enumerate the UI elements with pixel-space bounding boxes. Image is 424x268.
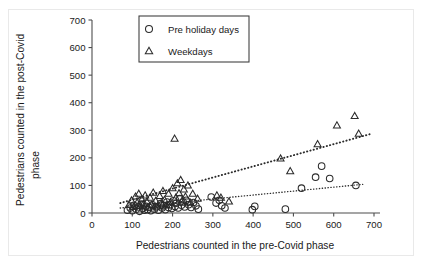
data-point-circle <box>312 174 319 181</box>
x-tick-label: 200 <box>165 219 181 230</box>
x-tick-label: 500 <box>285 219 301 230</box>
data-point-triangle <box>351 112 358 118</box>
y-axis-title-line2: phase <box>30 151 41 179</box>
y-tick-label: 600 <box>69 42 85 53</box>
y-tick-label: 0 <box>80 208 85 219</box>
y-tick-label: 700 <box>69 15 85 26</box>
data-point-triangle <box>355 130 362 136</box>
y-tick-label: 300 <box>69 125 85 136</box>
data-point-triangle <box>333 122 340 128</box>
data-point-triangle <box>142 192 149 198</box>
data-point-circle <box>282 206 289 213</box>
x-tick-label: 600 <box>326 219 342 230</box>
data-point-circle <box>326 175 333 182</box>
y-tick-label: 100 <box>69 180 85 191</box>
y-tick-label: 500 <box>69 70 85 81</box>
y-tick-label: 400 <box>69 97 85 108</box>
data-point-triangle <box>314 141 321 147</box>
legend-label: Weekdays <box>168 46 213 57</box>
y-axis-title-line1: Pedestrians counted in the post-Covid <box>15 34 26 206</box>
data-point-triangle <box>177 176 184 182</box>
data-point-triangle <box>171 135 178 141</box>
data-point-triangle <box>287 168 294 174</box>
legend-label: Pre holiday days <box>168 24 239 35</box>
x-tick-label: 100 <box>124 219 140 230</box>
data-point-triangle <box>189 190 196 196</box>
x-axis-title: Pedestrians counted in the pre-Covid pha… <box>136 240 335 251</box>
x-tick-label: 400 <box>245 219 261 230</box>
x-tick-label: 300 <box>205 219 221 230</box>
x-tick-label: 0 <box>89 219 94 230</box>
scatter-chart: 0100200300400500600700010020030040050060… <box>0 0 424 268</box>
data-point-triangle <box>225 198 232 204</box>
data-points <box>124 112 362 214</box>
x-tick-label: 700 <box>366 219 382 230</box>
y-tick-label: 200 <box>69 152 85 163</box>
trend-line-weekdays <box>120 134 370 203</box>
chart-legend: Pre holiday daysWeekdays <box>139 16 249 62</box>
data-point-triangle <box>180 186 187 192</box>
chart-figure: 0100200300400500600700010020030040050060… <box>0 0 424 268</box>
data-point-circle <box>318 163 325 170</box>
